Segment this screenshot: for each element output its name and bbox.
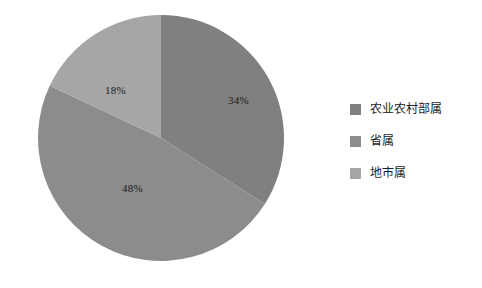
legend-item-dishishu[interactable]: 地市属 bbox=[350, 165, 480, 181]
legend-swatch-icon bbox=[350, 104, 361, 115]
legend-item-nongyenongcunbushu[interactable]: 农业农村部属 bbox=[350, 101, 480, 117]
legend-item-label: 省属 bbox=[370, 135, 394, 147]
pie-label-48: 48% bbox=[122, 182, 143, 194]
legend-swatch-icon bbox=[350, 168, 361, 179]
legend: 农业农村部属 省属 地市属 bbox=[350, 101, 480, 197]
pie-label-18: 18% bbox=[105, 84, 126, 96]
pie-plot-area: 34% 18% 48% bbox=[0, 0, 320, 288]
pie-graphic bbox=[0, 0, 320, 288]
legend-item-label: 地市属 bbox=[370, 167, 406, 179]
legend-swatch-icon bbox=[350, 136, 361, 147]
legend-item-label: 农业农村部属 bbox=[370, 103, 442, 115]
pie-chart: 34% 18% 48% 农业农村部属 省属 地市属 bbox=[0, 0, 482, 288]
legend-item-shengshu[interactable]: 省属 bbox=[350, 133, 480, 149]
pie-label-34: 34% bbox=[228, 94, 249, 106]
